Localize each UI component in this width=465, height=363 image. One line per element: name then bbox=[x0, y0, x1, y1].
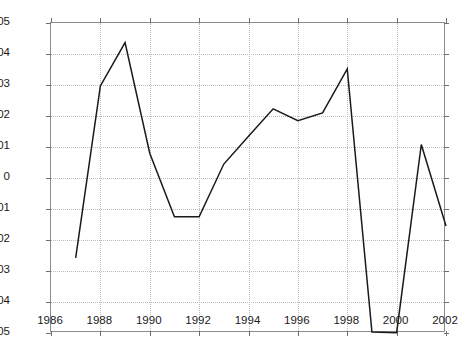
series-path bbox=[76, 43, 446, 333]
y-axis-tick-label: 0.04 bbox=[0, 47, 10, 59]
y-axis-tick-label: -0.01 bbox=[0, 202, 10, 214]
y-axis-tick-label: 0 bbox=[0, 171, 10, 183]
y-axis-tick-label: -0.05 bbox=[0, 326, 10, 338]
y-axis-tick-label: 0.05 bbox=[0, 16, 10, 28]
x-axis-tick-label: 1988 bbox=[87, 315, 113, 327]
x-axis-tick bbox=[446, 331, 447, 336]
x-axis-tick-label: 2000 bbox=[383, 315, 409, 327]
x-axis-tick-label: 1996 bbox=[284, 315, 310, 327]
chart-figure: 0.050.040.030.020.010-0.01-0.02-0.03-0.0… bbox=[0, 0, 465, 363]
y-axis-tick-label: 0.02 bbox=[0, 109, 10, 121]
y-axis-tick-label: 0.01 bbox=[0, 140, 10, 152]
x-axis-tick-label: 1992 bbox=[185, 315, 211, 327]
x-axis-tick-label: 1990 bbox=[136, 315, 162, 327]
x-axis-tick-label: 1986 bbox=[37, 315, 63, 327]
x-axis-tick-label: 1998 bbox=[333, 315, 359, 327]
x-axis-tick bbox=[446, 18, 447, 23]
plot-area bbox=[50, 22, 445, 332]
y-axis-tick-label: -0.03 bbox=[0, 264, 10, 276]
y-axis-tick-label: -0.02 bbox=[0, 233, 10, 245]
x-axis-tick-label: 1994 bbox=[235, 315, 261, 327]
y-axis-tick-label: -0.04 bbox=[0, 295, 10, 307]
y-axis-tick-label: 0.03 bbox=[0, 78, 10, 90]
x-axis-tick-label: 2002 bbox=[432, 315, 458, 327]
data-series-line bbox=[51, 23, 446, 333]
